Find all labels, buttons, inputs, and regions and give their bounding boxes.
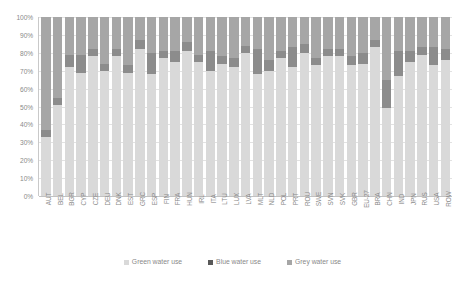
bar[interactable] xyxy=(441,17,451,196)
x-axis-tick: EST xyxy=(122,197,132,249)
x-axis-tick: CHN xyxy=(381,197,391,249)
bar[interactable] xyxy=(159,17,169,196)
bar-segment xyxy=(182,17,192,42)
bar[interactable] xyxy=(123,17,133,196)
x-axis-tick: CYP xyxy=(75,197,85,249)
bar-segment xyxy=(241,53,251,196)
x-axis-tick: ROU xyxy=(299,197,309,249)
bar-segment xyxy=(100,71,110,196)
bar-segment xyxy=(370,47,380,196)
x-axis-tick-label: JPN xyxy=(410,193,417,205)
bar-segment xyxy=(288,47,298,67)
bar[interactable] xyxy=(65,17,75,196)
bar[interactable] xyxy=(264,17,274,196)
bar-segment xyxy=(417,17,427,47)
bar[interactable] xyxy=(76,17,86,196)
bar[interactable] xyxy=(394,17,404,196)
bar[interactable] xyxy=(276,17,286,196)
bar-segment xyxy=(41,137,51,196)
bar-segment xyxy=(405,51,415,62)
x-axis-tick: LUX xyxy=(228,197,238,249)
x-axis-tick: USA xyxy=(428,197,438,249)
x-axis-tick-label: NLD xyxy=(268,193,275,206)
bar[interactable] xyxy=(53,17,63,196)
bar[interactable] xyxy=(382,17,392,196)
x-axis-tick: DNK xyxy=(111,197,121,249)
x-axis-tick-label: SVK xyxy=(339,193,346,206)
bar[interactable] xyxy=(206,17,216,196)
x-axis-tick: LVA xyxy=(240,197,250,249)
x-axis-tick-label: DEU xyxy=(104,192,111,205)
bar-segment xyxy=(135,17,145,40)
bar-segment xyxy=(241,17,251,46)
y-axis-tick-label: 20% xyxy=(20,157,33,164)
y-axis-tick-label: 10% xyxy=(20,175,33,182)
bar[interactable] xyxy=(323,17,333,196)
x-axis-tick-label: LTU xyxy=(221,193,228,204)
bar[interactable] xyxy=(335,17,345,196)
legend-swatch-icon xyxy=(124,260,129,265)
bar[interactable] xyxy=(170,17,180,196)
bar-segment xyxy=(229,58,239,67)
x-axis-tick-label: SWE xyxy=(315,192,322,206)
bar-segment xyxy=(276,51,286,58)
bar-segment xyxy=(358,17,368,53)
bar-segment xyxy=(405,62,415,196)
bar[interactable] xyxy=(112,17,122,196)
x-axis-tick: HUN xyxy=(181,197,191,249)
bar[interactable] xyxy=(347,17,357,196)
legend-item[interactable]: Grey water use xyxy=(287,258,341,266)
bar-segment xyxy=(65,55,75,68)
bar-segment xyxy=(382,108,392,196)
legend-item[interactable]: Blue water use xyxy=(208,258,261,266)
x-axis-tick: GBR xyxy=(346,197,356,249)
bar[interactable] xyxy=(288,17,298,196)
legend-item[interactable]: Green water use xyxy=(124,258,182,266)
bar-segment xyxy=(182,42,192,51)
bar-segment xyxy=(264,60,274,71)
x-axis-tick: MLT xyxy=(252,197,262,249)
bar-segment xyxy=(417,47,427,54)
bar-segment xyxy=(41,17,51,130)
bar[interactable] xyxy=(417,17,427,196)
bar[interactable] xyxy=(229,17,239,196)
x-axis: AUTBELBGRCYPCZEDEUDNKESTGRCESPFINFRAHUNI… xyxy=(38,197,452,249)
bar[interactable] xyxy=(405,17,415,196)
bar[interactable] xyxy=(241,17,251,196)
bar-segment xyxy=(358,53,368,64)
bar-segment xyxy=(370,40,380,47)
stacked-bar-chart: 100%90%80%70%60%50%40%30%20%10%0% AUTBEL… xyxy=(0,0,465,285)
bar-segment xyxy=(382,80,392,109)
bar[interactable] xyxy=(358,17,368,196)
bar-segment xyxy=(347,17,357,56)
bar[interactable] xyxy=(88,17,98,196)
bar-segment xyxy=(194,17,204,55)
bar[interactable] xyxy=(41,17,51,196)
legend-label: Grey water use xyxy=(295,258,341,266)
bar[interactable] xyxy=(147,17,157,196)
bar[interactable] xyxy=(370,17,380,196)
bar-segment xyxy=(170,62,180,196)
x-axis-tick-label: AUT xyxy=(45,193,52,205)
bar[interactable] xyxy=(194,17,204,196)
bar-segment xyxy=(182,51,192,196)
bar[interactable] xyxy=(429,17,439,196)
bar[interactable] xyxy=(253,17,263,196)
legend-label: Blue water use xyxy=(216,258,261,266)
bar-segment xyxy=(323,17,333,49)
bar[interactable] xyxy=(217,17,227,196)
bar[interactable] xyxy=(100,17,110,196)
x-axis-tick-label: CHN xyxy=(386,192,393,206)
bar-segment xyxy=(217,17,227,56)
bar[interactable] xyxy=(182,17,192,196)
bar-segment xyxy=(347,65,357,196)
bar-segment xyxy=(335,17,345,49)
bar[interactable] xyxy=(135,17,145,196)
bar-segment xyxy=(170,51,180,62)
x-axis-tick: IRL xyxy=(193,197,203,249)
x-axis-tick-label: PRT xyxy=(292,193,299,205)
bar[interactable] xyxy=(300,17,310,196)
x-axis-tick: BGR xyxy=(64,197,74,249)
bar-segment xyxy=(311,65,321,196)
bar[interactable] xyxy=(311,17,321,196)
